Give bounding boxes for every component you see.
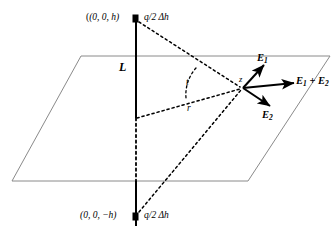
angle-label: t: [186, 78, 189, 88]
physics-diagram: ((0, 0, h) q/2 Δh (0, 0, −h) q/2 Δh L t …: [0, 0, 331, 235]
top-charge-value-label: q/2 Δh: [144, 13, 169, 23]
bottom-charge-marker: [133, 213, 139, 221]
top-charge-position-label: ((0, 0, h): [86, 13, 119, 23]
vector-e1-label: E1: [257, 53, 268, 64]
vertical-line-label: L: [119, 61, 126, 73]
bottom-charge-value-label: q/2 Δh: [144, 211, 169, 221]
field-point-label: z: [239, 75, 242, 84]
vector-e1: [243, 65, 264, 88]
radius-label: r: [187, 104, 191, 114]
vector-e2: [243, 88, 270, 106]
vector-e1-plus-e2: [243, 83, 294, 88]
horizontal-plane: [12, 56, 330, 181]
diagram-canvas: [0, 0, 331, 235]
bottom-charge-position-label: (0, 0, −h): [80, 211, 117, 221]
vector-e2-label: E2: [262, 110, 273, 121]
top-charge-marker: [133, 15, 139, 23]
vector-sum-label: E1 + E2: [296, 76, 329, 87]
